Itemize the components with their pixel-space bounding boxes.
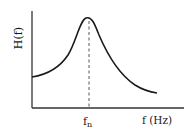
resonance-diagram: H(f) fn f (Hz) [0, 0, 194, 135]
natural-frequency-label: fn [83, 115, 92, 129]
y-axis-label: H(f) [12, 27, 25, 49]
x-axis-label: f (Hz) [142, 114, 172, 126]
response-curve [32, 18, 157, 93]
